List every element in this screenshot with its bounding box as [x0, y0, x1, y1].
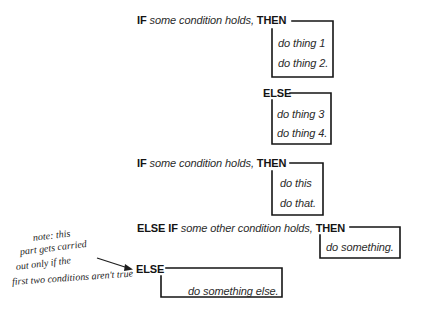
then-keyword: THEN [257, 14, 287, 26]
condition-text: some condition holds, [150, 14, 254, 26]
if-keyword: IF [137, 157, 147, 169]
else-if-keyword: ELSE IF [137, 222, 178, 234]
block-4-action-1: do something. [326, 240, 394, 254]
block-1-action-2: do thing 2. [278, 56, 328, 70]
then-keyword: THEN [316, 222, 346, 234]
block-2-action-1: do thing 3 [277, 107, 324, 121]
condition-text: some other condition holds, [181, 222, 313, 234]
then-keyword: THEN [257, 157, 287, 169]
block-3-header: IF some condition holds, THEN [137, 156, 286, 170]
if-keyword: IF [137, 14, 147, 26]
block-5-action-1: do something else. [188, 284, 279, 298]
block-2-action-2: do thing 4. [277, 126, 327, 140]
condition-text: some condition holds, [150, 157, 254, 169]
block-3-action-1: do this [280, 176, 312, 190]
block-1-header: IF some condition holds, THEN [137, 13, 286, 27]
else-keyword: ELSE [136, 262, 164, 276]
block-3-action-2: do that. [280, 196, 316, 210]
block-4-header: ELSE IF some other condition holds, THEN [137, 221, 345, 235]
block-1-action-1: do thing 1 [278, 36, 325, 50]
else-keyword: ELSE [263, 86, 291, 100]
